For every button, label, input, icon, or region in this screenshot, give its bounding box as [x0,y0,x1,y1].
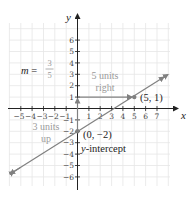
svg-text:−1: −1 [63,116,74,125]
svg-text:1: 1 [87,112,92,121]
point-5-1 [132,95,136,99]
svg-text:up: up [41,133,51,144]
svg-text:m =: m = [21,65,37,76]
svg-text:1: 1 [69,93,74,102]
svg-text:4: 4 [121,112,126,121]
svg-text:7: 7 [155,112,160,121]
svg-text:4: 4 [69,59,74,68]
graph-line-start-arrow [10,168,20,174]
grid [9,23,170,186]
svg-text:−3: −3 [36,112,47,121]
svg-text:−2: −2 [48,112,59,121]
svg-text:5: 5 [69,47,74,56]
svg-text:6: 6 [143,112,148,121]
run-label: 5 units right [92,70,119,93]
svg-text:−5: −5 [13,112,24,121]
coordinate-graph: x y −5 −4 −3 −2 −1 1 2 3 4 5 6 7 6 5 4 3 [0,0,189,203]
rise-label: 3 units up [33,121,60,144]
svg-text:6: 6 [69,36,74,45]
svg-text:2: 2 [69,81,74,90]
svg-text:right: right [96,82,115,93]
svg-text:3 units: 3 units [33,121,60,132]
svg-text:3: 3 [47,58,51,68]
svg-text:−4: −4 [25,112,36,121]
svg-text:3: 3 [69,70,74,79]
intercept-caption: y-intercept [80,143,126,154]
svg-text:−5: −5 [63,161,74,170]
svg-text:5 units: 5 units [92,70,119,81]
svg-text:−6: −6 [63,173,74,182]
x-axis-label: x [180,109,186,121]
y-axis-label: y [65,11,71,23]
svg-text:5: 5 [132,112,137,121]
svg-text:5: 5 [47,70,51,80]
graph-line-end-arrow [160,75,168,80]
point-5-1-label: (5, 1) [140,92,163,104]
point-y-intercept [75,129,79,133]
intercept-point-label: (0, −2) [83,129,112,141]
svg-text:−4: −4 [63,150,74,159]
slope-annotation: m = 3 5 [21,58,54,80]
svg-text:3: 3 [109,112,114,121]
